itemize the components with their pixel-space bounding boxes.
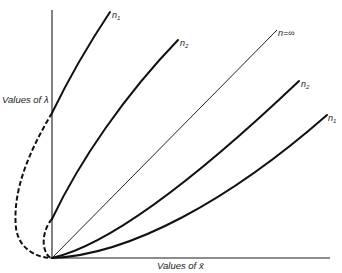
label-lower-n2: n2 [301,79,310,90]
curve-upper-n2-dashed [44,219,52,258]
label-lower-n1: n1 [328,113,336,124]
label-upper-n2: n2 [180,38,189,49]
lambda-vs-x-diagram: Values of λ Values of x̄ n1 n2 n=∞ n2 n1 [0,0,342,273]
label-upper-n1: n1 [112,10,120,21]
curve-lower-n1 [52,115,327,258]
curve-lower-n2 [52,81,299,258]
label-n-infinity: n=∞ [278,28,295,38]
curve-upper-n2 [52,40,178,219]
curve-n-infinity [52,30,277,258]
x-axis-label: Values of x̄ [157,260,205,271]
curve-upper-n1 [52,12,110,113]
curve-upper-n1-dashed [15,113,52,258]
y-axis-label: Values of λ [2,94,49,105]
